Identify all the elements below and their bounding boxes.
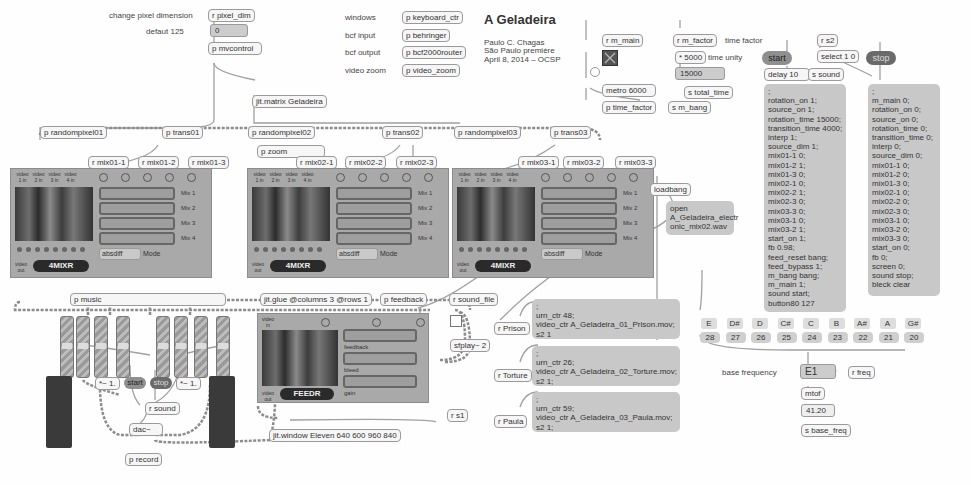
note-number-1[interactable]: 27 [726, 332, 746, 343]
start-button[interactable]: start [762, 51, 792, 65]
note-number-3[interactable]: 25 [777, 332, 797, 343]
loadbang-object[interactable]: loadbang [650, 183, 691, 196]
note-number-5[interactable]: 23 [828, 332, 848, 343]
mix-slider-4[interactable] [99, 232, 175, 245]
gain-slider[interactable] [343, 375, 417, 388]
torture-message[interactable]: ; urn_ctr 26; video_ctr A_Geladeira_02_T… [532, 346, 680, 386]
r-m-main[interactable]: r m_main [602, 34, 643, 47]
mode-select[interactable]: absdiff [336, 248, 378, 260]
fader-4[interactable] [116, 316, 130, 378]
mix-slider-1[interactable] [541, 187, 617, 200]
r-sound[interactable]: r sound [145, 402, 180, 415]
mixer-inlet-knob[interactable] [585, 173, 594, 182]
note-4[interactable]: C [803, 318, 819, 329]
r-pixel-dim[interactable]: r pixel_dim [208, 9, 255, 22]
select-object[interactable]: select 1 0 [817, 50, 859, 63]
dac-object[interactable]: dac~ [129, 423, 163, 436]
stop-button[interactable]: stop [866, 51, 896, 65]
mixer-inlet-knob[interactable] [629, 173, 638, 182]
feedback-slider[interactable] [343, 329, 417, 342]
mixer-inlet-knob[interactable] [121, 173, 130, 182]
fader-2[interactable] [76, 316, 90, 378]
bleed-slider[interactable] [343, 352, 417, 365]
multiply-object[interactable]: * 5000 [675, 51, 706, 64]
mix-slider-3[interactable] [99, 217, 175, 230]
p-bcf2000router[interactable]: p bcf2000router [402, 46, 466, 59]
note-8[interactable]: G# [905, 318, 921, 329]
mix-slider-1[interactable] [336, 187, 412, 200]
mixer-inlet-knob[interactable] [99, 173, 108, 182]
feedr-inlet-2[interactable] [372, 318, 381, 327]
fader-1[interactable] [60, 316, 74, 378]
mtof-object[interactable]: mtof [801, 387, 825, 400]
note-number-4[interactable]: 24 [802, 332, 822, 343]
bang-button[interactable] [590, 67, 600, 77]
delay-object[interactable]: delay 10 [764, 68, 810, 81]
note-number-6[interactable]: 22 [853, 332, 873, 343]
mult-left[interactable]: *~ 1. [95, 377, 120, 390]
p-record[interactable]: p record [125, 453, 162, 466]
mix-slider-3[interactable] [541, 217, 617, 230]
fader-6[interactable] [174, 316, 188, 378]
note-0[interactable]: E [701, 318, 717, 329]
mixer-inlet-knob[interactable] [541, 173, 550, 182]
mixer-inlet-knob[interactable] [424, 173, 433, 182]
music-stop-button[interactable]: stop [150, 377, 172, 389]
r-sound-file[interactable]: r sound_file [449, 293, 498, 306]
mix-slider-2[interactable] [336, 202, 412, 215]
mix-slider-2[interactable] [541, 202, 617, 215]
note-number-0[interactable]: 28 [700, 332, 720, 343]
pixel-dim-number[interactable]: 0 [210, 24, 248, 37]
note-5[interactable]: B [829, 318, 845, 329]
note-7[interactable]: A [880, 318, 896, 329]
p-trans01[interactable]: p trans01 [162, 126, 203, 139]
frequency-number[interactable]: 41.20 [801, 404, 835, 417]
p-keyboard-ctr[interactable]: p keyboard_ctr [402, 11, 463, 24]
mix-slider-3[interactable] [336, 217, 412, 230]
mixer-inlet-knob[interactable] [143, 173, 152, 182]
base-note-number[interactable]: E1 [800, 364, 836, 379]
mixer-inlet-knob[interactable] [607, 173, 616, 182]
s-base-freq[interactable]: s base_freq [801, 424, 851, 437]
metro-object[interactable]: metro 6000 [602, 84, 656, 97]
mult-right[interactable]: *~ 1. [176, 377, 201, 390]
note-number-2[interactable]: 26 [751, 332, 771, 343]
mixer-inlet-knob[interactable] [402, 173, 411, 182]
mix-slider-4[interactable] [336, 232, 412, 245]
note-6[interactable]: A# [854, 318, 870, 329]
p-randompixel03[interactable]: p randompixel03 [454, 126, 521, 139]
p-video-zoom[interactable]: p video_zoom [402, 64, 460, 77]
toggle[interactable] [602, 50, 618, 66]
s-m-bang[interactable]: s m_bang [668, 101, 711, 114]
note-3[interactable]: C# [778, 318, 794, 329]
jit-glue[interactable]: jit.glue @columns 3 @rows 1 [260, 293, 372, 306]
p-music[interactable]: p music [70, 293, 226, 306]
mix-slider-2[interactable] [99, 202, 175, 215]
p-feedback[interactable]: p feedback [380, 293, 427, 306]
sfplay-object[interactable]: sfplay~ 2 [450, 339, 490, 352]
start-message-box[interactable]: ; rotation_on 1; source_on 1; rotation_t… [764, 84, 846, 312]
r-prison[interactable]: r Prison [494, 322, 530, 335]
s-total-time[interactable]: s total_time [684, 86, 733, 99]
r-torture[interactable]: r Torture [494, 369, 532, 382]
s-sound[interactable]: s sound [808, 68, 844, 81]
p-randompixel01[interactable]: p randompixel01 [40, 126, 107, 139]
fader-7[interactable] [194, 316, 208, 378]
p-time-factor[interactable]: p time_factor [602, 101, 656, 114]
p-behringer[interactable]: p behringer [402, 29, 450, 42]
r-s1[interactable]: r s1 [447, 409, 468, 422]
stop-message-box[interactable]: ; m_main 0; rotation_on 0; source_on 0; … [868, 84, 940, 296]
mode-select[interactable]: absdiff [541, 248, 583, 260]
r-paula[interactable]: r Paula [494, 415, 527, 428]
jit-window[interactable]: jit.window Eleven 640 600 960 840 [269, 429, 401, 442]
mixer-inlet-knob[interactable] [187, 173, 196, 182]
music-start-button[interactable]: start [124, 377, 146, 389]
r-m-factor[interactable]: r m_factor [673, 34, 717, 47]
feedr-inlet-1[interactable] [321, 318, 330, 327]
mix-slider-1[interactable] [99, 187, 175, 200]
note-1[interactable]: D# [727, 318, 743, 329]
mode-select[interactable]: absdiff [99, 248, 141, 260]
fader-5[interactable] [156, 316, 170, 378]
prison-message[interactable]: ; urn_ctr 48; video_ctr A_Geladeira_01_P… [532, 299, 680, 339]
paula-message[interactable]: ; urn_ctr 59; video_ctr A_Geladeira_03_P… [532, 392, 680, 432]
